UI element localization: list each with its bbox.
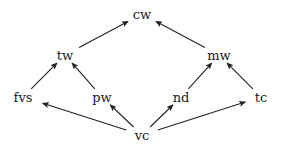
node-nd: nd bbox=[173, 91, 190, 104]
node-vc: vc bbox=[135, 129, 150, 142]
edge-tw-to-cw bbox=[79, 22, 128, 48]
edge-fvs-to-tw bbox=[31, 63, 57, 89]
edge-pw-to-tw bbox=[72, 63, 95, 89]
edge-vc-to-pw bbox=[110, 105, 133, 127]
edge-nd-to-mw bbox=[188, 63, 211, 89]
node-cw: cw bbox=[133, 8, 151, 21]
node-mw: mw bbox=[207, 49, 230, 62]
edge-tc-to-mw bbox=[227, 63, 253, 89]
node-pw: pw bbox=[92, 91, 111, 104]
edge-vc-to-fvs bbox=[43, 103, 126, 130]
edge-group bbox=[31, 22, 253, 131]
edge-mw-to-cw bbox=[156, 22, 205, 48]
node-fvs: fvs bbox=[14, 91, 33, 104]
hasse-diagram: cw tw mw fvs pw nd tc vc bbox=[0, 0, 284, 149]
node-tw: tw bbox=[57, 49, 73, 62]
node-tc: tc bbox=[255, 91, 268, 104]
edge-vc-to-nd bbox=[150, 105, 173, 127]
